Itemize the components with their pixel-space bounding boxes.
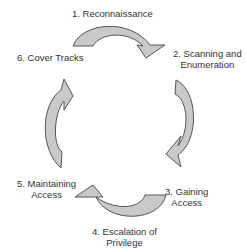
step-2-line1: 2. Scanning and	[173, 48, 242, 59]
step-4-line2: Privilege	[92, 237, 157, 248]
step-label-maintaining-access: 5. Maintaining Access	[17, 178, 76, 200]
step-label-escalation-privilege: 4. Escalation of Privilege	[92, 226, 157, 248]
curved-arrow-left-icon	[75, 185, 166, 216]
step-2-line2: Enumeration	[173, 59, 242, 70]
step-3-line1: 3. Gaining	[165, 186, 208, 197]
step-label-cover-tracks: 6. Cover Tracks	[17, 52, 84, 63]
step-3-line2: Access	[165, 197, 208, 208]
step-5-line2: Access	[17, 189, 76, 200]
cycle-diagram	[0, 0, 247, 252]
step-label-scanning-enumeration: 2. Scanning and Enumeration	[173, 48, 242, 70]
step-label-gaining-access: 3. Gaining Access	[165, 186, 208, 208]
step-5-line1: 5. Maintaining	[17, 178, 76, 189]
step-6-line1: 6. Cover Tracks	[17, 52, 84, 63]
step-label-reconnaissance: 1. Reconnaissance	[72, 8, 153, 19]
curved-arrow-up-icon	[45, 79, 73, 168]
step-1-line1: 1. Reconnaissance	[72, 8, 153, 19]
curved-arrow-right-icon	[73, 26, 165, 58]
step-4-line1: 4. Escalation of	[92, 226, 157, 237]
curved-arrow-down-icon	[166, 80, 194, 167]
